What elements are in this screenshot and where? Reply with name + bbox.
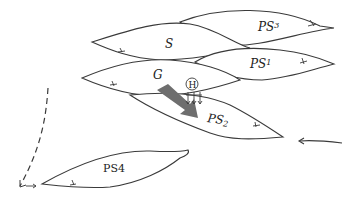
body-ps4: PS4 [42,150,189,188]
label-g: G [153,68,163,82]
label-ps4: PS4 [103,162,125,175]
label-s: S [165,37,173,51]
right-incoming-arrow [299,138,342,144]
small-down-arrows [186,92,202,104]
body-ps2: PS2 [130,93,283,139]
left-dashed-arrow [20,88,48,188]
h-label: H [189,80,197,90]
diagram-canvas: PS3 S PS1 G PS2 PS4 [0,0,359,199]
